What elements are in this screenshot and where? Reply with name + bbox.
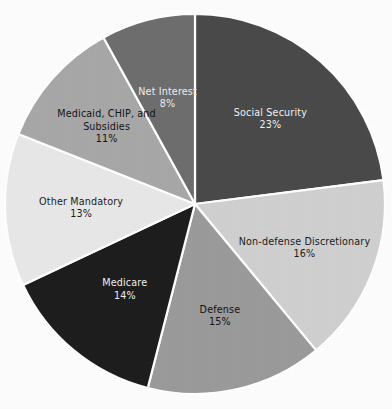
pie-slice-label-name: Other Mandatory	[39, 196, 123, 207]
pie-slice-label-value: 8%	[160, 98, 176, 109]
pie-slice-label-value: 23%	[260, 119, 282, 130]
pie-slice-label-name: Social Security	[234, 107, 307, 118]
pie-slice-label-name: Defense	[200, 304, 241, 315]
pie-slice-label-value: 15%	[209, 316, 231, 327]
pie-slice-label-name: Subsidies	[83, 121, 130, 132]
pie-slice-label-value: 11%	[96, 133, 118, 144]
pie-slice-label-name: Medicaid, CHIP, and	[57, 108, 155, 119]
pie-chart-figure: Social Security23%Non-defense Discretion…	[0, 0, 392, 409]
pie-slice-label-name: Non-defense Discretionary	[239, 236, 371, 247]
pie-chart-svg: Social Security23%Non-defense Discretion…	[0, 0, 392, 409]
pie-slice-label-value: 16%	[294, 248, 316, 259]
pie-slice-label-value: 13%	[70, 208, 92, 219]
pie-slice-label-value: 14%	[114, 290, 136, 301]
pie-slice-label-name: Medicare	[102, 277, 147, 288]
pie-slice-label-name: Net Interest	[138, 86, 197, 97]
